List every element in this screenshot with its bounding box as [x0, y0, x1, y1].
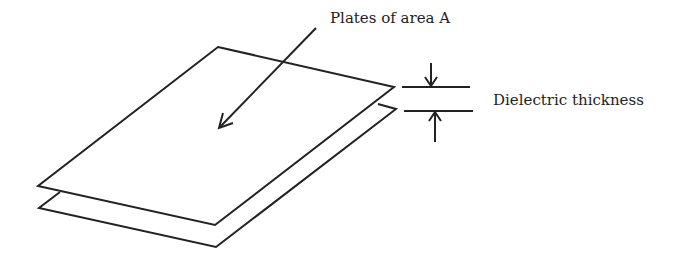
plates-label: Plates of area A	[330, 9, 450, 27]
dielectric-thickness-label: Dielectric thickness	[493, 91, 644, 109]
diagram-drawing	[0, 0, 697, 258]
capacitor-diagram: Plates of area A Dielectric thickness	[0, 0, 697, 258]
top-plate	[38, 47, 394, 225]
